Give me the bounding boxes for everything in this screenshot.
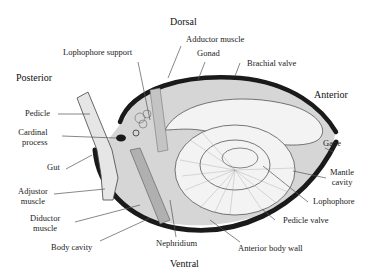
label-diductor-muscle: Diductor muscle (30, 214, 60, 234)
label-nephridium: Nephridium (156, 239, 197, 249)
label-diductor-muscle-line2: muscle (30, 224, 60, 234)
label-ventral: Ventral (170, 258, 199, 270)
label-cardinal-process-line2: process (22, 138, 48, 148)
label-anterior: Anterior (314, 89, 348, 101)
cardinal-process-shape (116, 135, 126, 142)
label-posterior: Posterior (16, 72, 52, 84)
label-adjustor-muscle: Adjustor muscle (18, 187, 48, 207)
label-mantle-cavity-line2: cavity (330, 178, 354, 188)
label-mantle-cavity: Mantle cavity (330, 168, 354, 188)
label-pedicle: Pedicle (25, 109, 50, 119)
label-gonad: Gonad (197, 49, 220, 59)
label-brachial-valve: Brachial valve (247, 59, 296, 69)
label-cardinal-process: Cardinal process (18, 128, 48, 148)
label-gape: Gape (323, 139, 341, 149)
label-gut: Gut (47, 163, 60, 173)
label-lophophore: Lophophore (313, 197, 355, 207)
label-lophophore-support: Lophophore support (63, 48, 132, 58)
label-adjustor-muscle-line2: muscle (18, 197, 48, 207)
label-pedicle-valve: Pedicle valve (283, 216, 329, 226)
label-anterior-body-wall: Anterior body wall (238, 244, 303, 254)
brachiopod-diagram: Dorsal Ventral Posterior Anterior Lophop… (0, 0, 376, 280)
label-dorsal: Dorsal (170, 16, 197, 28)
label-body-cavity: Body cavity (51, 243, 92, 253)
label-adductor-muscle: Adductor muscle (186, 35, 244, 45)
